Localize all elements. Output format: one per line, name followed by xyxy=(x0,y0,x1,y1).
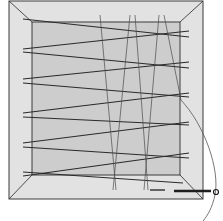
loom-illustration xyxy=(0,0,223,221)
frame xyxy=(9,1,203,199)
loom-diagram xyxy=(0,0,223,221)
